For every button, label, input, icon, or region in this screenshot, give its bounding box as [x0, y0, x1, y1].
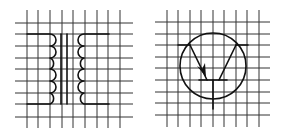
grid-left: [15, 10, 133, 128]
left-panel-transformer: [15, 10, 133, 128]
collector-line: [219, 45, 236, 80]
diagram-canvas: [0, 0, 282, 133]
right-panel-transistor: [155, 10, 270, 127]
